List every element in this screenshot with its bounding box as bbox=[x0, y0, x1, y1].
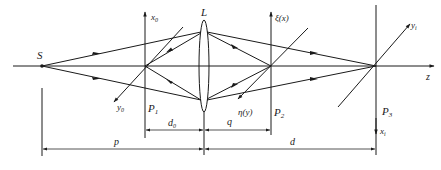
d0-dimension-label: d0 bbox=[168, 117, 176, 129]
p-dimension-label: p bbox=[113, 136, 119, 147]
d-dimension-label: d bbox=[290, 136, 296, 147]
lens-label: L bbox=[200, 6, 207, 18]
source-label: S bbox=[37, 49, 43, 61]
xi-axis-label: ξ(x) bbox=[275, 13, 289, 23]
x0-axis-label: x0 bbox=[150, 12, 158, 23]
optical-system-diagram: z S x0 y0 P1 L bbox=[0, 0, 441, 170]
p2-label: P2 bbox=[273, 106, 285, 120]
yi-image-axis-label: yi bbox=[410, 20, 417, 31]
q-dimension-label: q bbox=[227, 116, 232, 127]
image-plane-p3: xi yi P3 bbox=[338, 5, 417, 155]
p1-label: P1 bbox=[147, 102, 158, 116]
fourier-plane-p2: ξ(x) η(y) P2 bbox=[238, 12, 308, 135]
eta-axis-label: η(y) bbox=[238, 107, 252, 117]
lens: L bbox=[199, 6, 209, 155]
y0-axis-label: y0 bbox=[116, 102, 124, 113]
xi-image-axis-label: xi bbox=[379, 126, 386, 137]
point-source: S bbox=[37, 49, 44, 68]
p3-label: P3 bbox=[381, 105, 393, 119]
z-axis-label: z bbox=[425, 71, 430, 82]
